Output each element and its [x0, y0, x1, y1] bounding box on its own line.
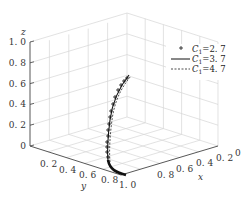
svg-text:0. 2: 0. 2	[9, 120, 26, 130]
svg-text:0. 8: 0. 8	[9, 58, 26, 68]
svg-text:0: 0	[235, 148, 241, 158]
curve-base	[108, 160, 126, 175]
svg-text:0: 0	[20, 141, 26, 151]
svg-text:0. 2: 0. 2	[40, 159, 57, 169]
grid-lines	[30, 13, 218, 169]
z-axis-label: z	[20, 27, 26, 37]
svg-text:0. 8: 0. 8	[101, 175, 118, 185]
svg-text:0. 6: 0. 6	[176, 164, 193, 174]
svg-text:0. 2: 0. 2	[216, 153, 233, 163]
z-tick-labels: 1. 0 0. 8 0. 6 0. 4 0. 2 0	[9, 37, 26, 151]
svg-text:C1=4. 7: C1=4. 7	[192, 64, 226, 75]
x-axis-label: x	[198, 172, 203, 182]
svg-text:0. 6: 0. 6	[79, 170, 96, 180]
svg-text:1. 0: 1. 0	[119, 180, 136, 190]
legend: C1=2. 7 C1=3. 7 C1=4. 7	[166, 44, 246, 80]
svg-text:1. 0: 1. 0	[9, 37, 26, 47]
y-axis-label: y	[80, 181, 87, 191]
3d-line-chart: 1. 0 0. 8 0. 6 0. 4 0. 2 0 z 0. 2 0. 4 0…	[0, 0, 252, 200]
svg-text:0. 8: 0. 8	[157, 170, 174, 180]
svg-text:0. 4: 0. 4	[9, 99, 26, 109]
svg-text:0. 6: 0. 6	[9, 79, 26, 89]
svg-text:0. 4: 0. 4	[59, 165, 76, 175]
z-tick-marks	[30, 41, 34, 146]
svg-text:0. 4: 0. 4	[196, 158, 213, 168]
